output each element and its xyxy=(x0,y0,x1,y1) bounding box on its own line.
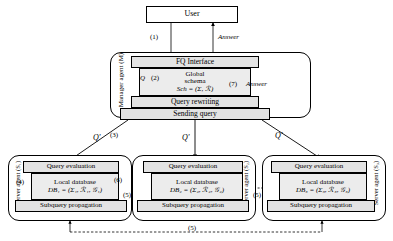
agent-2-db-formula: DB₂ = (Σ₂, ℛ₂, 𝒢₂) xyxy=(170,187,224,194)
edge-label-step5-b: (5) xyxy=(253,191,261,199)
agent-3-subquery-propagation-box[interactable]: Subquery propagation xyxy=(267,200,375,212)
edge-label-step7: (7) xyxy=(229,80,237,88)
edge-label-step2: (2) xyxy=(151,74,159,82)
agent-2-query-evaluation-label: Query evaluation xyxy=(169,163,217,170)
edge-label-step4: (4) xyxy=(16,178,24,186)
agent-2-local-database-box[interactable]: Local database DB₂ = (Σ₂, ℛ₂, 𝒢₂) xyxy=(151,173,243,200)
agent-1-subquery-propagation-label: Subquery propagation xyxy=(40,202,102,209)
edge-label-answer-mid: Answer xyxy=(246,80,267,88)
query-rewriting-box[interactable]: Query rewriting xyxy=(131,96,259,108)
server-agent-3-container[interactable]: Server agent (S₃) Query evaluation Local… xyxy=(262,155,386,221)
diagram-canvas: User Manager agent (M) FQ Interface Glob… xyxy=(0,0,393,241)
agent-2-subquery-propagation-box[interactable]: Subquery propagation xyxy=(137,200,249,212)
edge-label-answer-top: Answer xyxy=(218,33,239,41)
edge-label-step3: (3) xyxy=(110,131,118,139)
global-schema-formula: Sch = (Σ, ℛ) xyxy=(177,86,214,93)
agent-1-subquery-propagation-box[interactable]: Subquery propagation xyxy=(15,200,127,212)
edge-label-q-prime-right: Q' xyxy=(275,131,283,140)
edge-label-step5-bottom: (5) xyxy=(188,224,196,232)
server-agent-1-container[interactable]: Server agent (S₁) Query evaluation Local… xyxy=(8,155,132,221)
agent-1-query-evaluation-label: Query evaluation xyxy=(47,163,95,170)
agent-1-query-evaluation-box[interactable]: Query evaluation xyxy=(23,161,119,173)
edge-label-step1: (1) xyxy=(150,33,158,41)
fq-interface-label: FQ Interface xyxy=(176,58,214,66)
server-agent-2-container[interactable]: Server agent (S₂) Query evaluation Local… xyxy=(132,155,256,221)
user-box[interactable]: User xyxy=(146,6,238,23)
agent-1-db-formula: DB₁ = (Σ₁, ℛ₁, 𝒢₁) xyxy=(48,187,102,194)
agent-2-subquery-propagation-label: Subquery propagation xyxy=(162,202,224,209)
sending-query-label: Sending query xyxy=(173,110,217,118)
agent-3-subquery-propagation-label: Subquery propagation xyxy=(290,202,352,209)
agent-3-db-formula: DB₃ = (Σ₃, ℛ₃, 𝒢₃) xyxy=(296,187,350,194)
agent-2-query-evaluation-box[interactable]: Query evaluation xyxy=(143,161,243,173)
agent-1-local-database-box[interactable]: Local database DB₁ = (Σ₁, ℛ₁, 𝒢₁) xyxy=(31,173,119,200)
agent-3-query-evaluation-label: Query evaluation xyxy=(295,163,343,170)
edge-label-step6: (6) xyxy=(114,176,122,184)
sending-query-box[interactable]: Sending query xyxy=(120,108,270,120)
query-rewriting-label: Query rewriting xyxy=(171,98,219,106)
user-label: User xyxy=(184,10,199,18)
fq-interface-box[interactable]: FQ Interface xyxy=(131,56,259,68)
edge-label-q-prime-left: Q' xyxy=(93,133,101,142)
agent-3-query-evaluation-box[interactable]: Query evaluation xyxy=(271,161,367,173)
edge-label-q-prime-mid: Q' xyxy=(182,133,190,142)
edge-label-q-left: Q xyxy=(140,74,145,82)
edge-label-step5-a: (5) xyxy=(123,191,131,199)
agent-3-local-database-box[interactable]: Local database DB₃ = (Σ₃, ℛ₃, 𝒢₃) xyxy=(279,173,367,200)
manager-agent-label: Manager agent (M) xyxy=(116,49,126,111)
